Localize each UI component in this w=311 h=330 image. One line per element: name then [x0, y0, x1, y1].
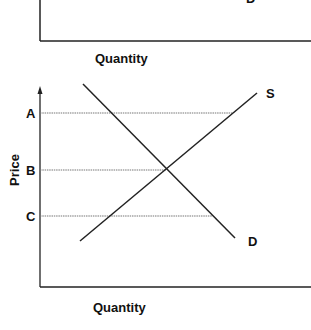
top-x-axis-label: Quantity	[95, 51, 148, 66]
y-axis-arrow-icon	[38, 86, 43, 94]
supply-curve	[80, 93, 257, 241]
supply-demand-figure: D Quantity S D A B C Price Quantity	[0, 0, 311, 330]
price-label-a: A	[26, 106, 36, 121]
demand-label: D	[248, 234, 257, 249]
main-chart: S D A B C Price Quantity	[7, 84, 311, 315]
top-chart: D Quantity	[40, 0, 311, 66]
supply-label: S	[266, 86, 275, 101]
y-axis-label: Price	[7, 154, 22, 186]
demand-curve	[83, 84, 235, 238]
x-axis-label: Quantity	[93, 300, 146, 315]
top-demand-label: D	[246, 0, 255, 6]
price-label-c: C	[26, 209, 36, 224]
price-label-b: B	[26, 163, 35, 178]
